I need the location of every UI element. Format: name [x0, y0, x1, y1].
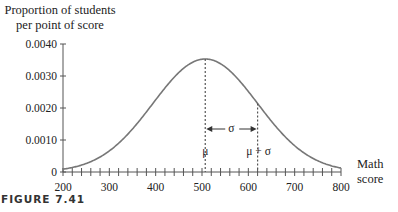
- x-tick-label: 800: [332, 181, 350, 193]
- arrow-left-icon: [206, 126, 212, 132]
- sigma-label: σ: [228, 122, 235, 134]
- mu-label: μ: [202, 145, 208, 158]
- figure-caption: FIGURE 7.41: [1, 193, 85, 205]
- x-axis-title-line1: Math: [357, 157, 383, 172]
- arrow-right-icon: [251, 126, 257, 132]
- y-tick-label: 0.0010: [25, 134, 57, 146]
- x-tick-label: 200: [54, 181, 72, 193]
- axes: 00.00100.00200.00300.0040200300400500600…: [25, 38, 350, 193]
- x-tick-label: 600: [240, 181, 258, 193]
- x-tick-label: 500: [193, 181, 211, 193]
- x-tick-label: 300: [101, 181, 119, 193]
- annotations: σμμ + σ: [202, 59, 272, 172]
- y-tick-label: 0.0040: [25, 38, 57, 50]
- x-axis-title-line2: score: [357, 172, 383, 187]
- y-tick-label: 0.0030: [25, 70, 57, 82]
- x-axis-title: Math score: [357, 157, 383, 187]
- normal-curve-chart: 00.00100.00200.00300.0040200300400500600…: [0, 0, 398, 212]
- x-tick-label: 400: [147, 181, 165, 193]
- y-tick-label: 0.0020: [25, 102, 57, 114]
- x-tick-label: 700: [286, 181, 304, 193]
- y-tick-label: 0: [51, 166, 57, 178]
- mu-plus-sigma-label: μ + σ: [246, 145, 271, 158]
